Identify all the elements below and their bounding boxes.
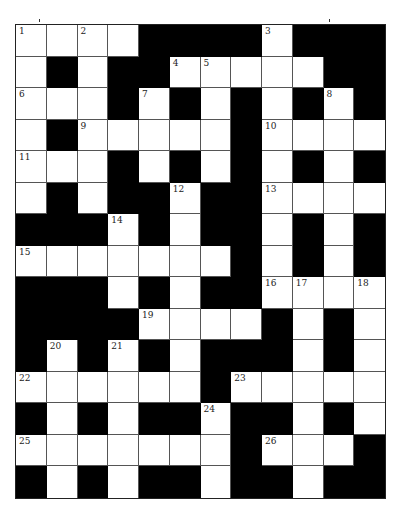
answer-cell[interactable] bbox=[231, 309, 262, 341]
answer-cell[interactable]: 7 bbox=[139, 88, 170, 120]
answer-cell[interactable] bbox=[324, 120, 355, 152]
answer-cell[interactable] bbox=[354, 340, 385, 372]
answer-cell[interactable] bbox=[354, 183, 385, 215]
answer-cell[interactable] bbox=[108, 372, 139, 404]
answer-cell[interactable] bbox=[201, 88, 232, 120]
answer-cell[interactable] bbox=[47, 466, 78, 498]
answer-cell[interactable]: 24 bbox=[201, 403, 232, 435]
answer-cell[interactable] bbox=[47, 88, 78, 120]
answer-cell[interactable]: 22 bbox=[16, 372, 47, 404]
answer-cell[interactable] bbox=[324, 277, 355, 309]
answer-cell[interactable]: 2 bbox=[78, 25, 109, 57]
answer-cell[interactable]: 19 bbox=[139, 309, 170, 341]
answer-cell[interactable]: 1 bbox=[16, 25, 47, 57]
answer-cell[interactable] bbox=[293, 120, 324, 152]
answer-cell[interactable]: 6 bbox=[16, 88, 47, 120]
answer-cell[interactable] bbox=[108, 25, 139, 57]
answer-cell[interactable] bbox=[170, 340, 201, 372]
answer-cell[interactable] bbox=[78, 246, 109, 278]
answer-cell[interactable] bbox=[293, 183, 324, 215]
answer-cell[interactable] bbox=[47, 435, 78, 467]
answer-cell[interactable] bbox=[108, 403, 139, 435]
answer-cell[interactable]: 13 bbox=[262, 183, 293, 215]
answer-cell[interactable] bbox=[262, 246, 293, 278]
answer-cell[interactable]: 16 bbox=[262, 277, 293, 309]
answer-cell[interactable] bbox=[170, 214, 201, 246]
answer-cell[interactable] bbox=[201, 120, 232, 152]
answer-cell[interactable] bbox=[170, 120, 201, 152]
answer-cell[interactable] bbox=[324, 246, 355, 278]
answer-cell[interactable] bbox=[139, 246, 170, 278]
answer-cell[interactable] bbox=[170, 435, 201, 467]
answer-cell[interactable] bbox=[78, 435, 109, 467]
answer-cell[interactable] bbox=[108, 120, 139, 152]
answer-cell[interactable] bbox=[293, 403, 324, 435]
answer-cell[interactable]: 20 bbox=[47, 340, 78, 372]
answer-cell[interactable] bbox=[47, 151, 78, 183]
answer-cell[interactable] bbox=[262, 151, 293, 183]
answer-cell[interactable] bbox=[293, 309, 324, 341]
answer-cell[interactable] bbox=[139, 120, 170, 152]
answer-cell[interactable] bbox=[354, 309, 385, 341]
answer-cell[interactable]: 10 bbox=[262, 120, 293, 152]
answer-cell[interactable] bbox=[293, 372, 324, 404]
answer-cell[interactable] bbox=[47, 25, 78, 57]
answer-cell[interactable] bbox=[201, 151, 232, 183]
answer-cell[interactable] bbox=[262, 88, 293, 120]
answer-cell[interactable]: 17 bbox=[293, 277, 324, 309]
answer-cell[interactable] bbox=[262, 57, 293, 89]
answer-cell[interactable] bbox=[139, 151, 170, 183]
answer-cell[interactable] bbox=[231, 57, 262, 89]
answer-cell[interactable] bbox=[139, 372, 170, 404]
answer-cell[interactable] bbox=[201, 246, 232, 278]
answer-cell[interactable] bbox=[201, 466, 232, 498]
answer-cell[interactable]: 3 bbox=[262, 25, 293, 57]
answer-cell[interactable] bbox=[47, 246, 78, 278]
answer-cell[interactable] bbox=[108, 435, 139, 467]
answer-cell[interactable] bbox=[170, 309, 201, 341]
answer-cell[interactable] bbox=[324, 214, 355, 246]
answer-cell[interactable]: 25 bbox=[16, 435, 47, 467]
answer-cell[interactable] bbox=[170, 277, 201, 309]
answer-cell[interactable] bbox=[16, 183, 47, 215]
answer-cell[interactable] bbox=[139, 435, 170, 467]
answer-cell[interactable]: 8 bbox=[324, 88, 355, 120]
answer-cell[interactable]: 5 bbox=[201, 57, 232, 89]
answer-cell[interactable] bbox=[354, 372, 385, 404]
answer-cell[interactable]: 26 bbox=[262, 435, 293, 467]
answer-cell[interactable] bbox=[108, 466, 139, 498]
answer-cell[interactable]: 12 bbox=[170, 183, 201, 215]
answer-cell[interactable] bbox=[78, 183, 109, 215]
answer-cell[interactable] bbox=[170, 246, 201, 278]
answer-cell[interactable] bbox=[293, 466, 324, 498]
answer-cell[interactable]: 14 bbox=[108, 214, 139, 246]
answer-cell[interactable] bbox=[324, 151, 355, 183]
answer-cell[interactable] bbox=[16, 57, 47, 89]
answer-cell[interactable] bbox=[324, 183, 355, 215]
answer-cell[interactable] bbox=[47, 403, 78, 435]
answer-cell[interactable]: 18 bbox=[354, 277, 385, 309]
answer-cell[interactable] bbox=[108, 246, 139, 278]
answer-cell[interactable] bbox=[324, 372, 355, 404]
answer-cell[interactable]: 4 bbox=[170, 57, 201, 89]
answer-cell[interactable] bbox=[78, 372, 109, 404]
answer-cell[interactable]: 21 bbox=[108, 340, 139, 372]
answer-cell[interactable] bbox=[324, 435, 355, 467]
answer-cell[interactable] bbox=[16, 120, 47, 152]
answer-cell[interactable] bbox=[262, 372, 293, 404]
answer-cell[interactable] bbox=[201, 309, 232, 341]
answer-cell[interactable]: 15 bbox=[16, 246, 47, 278]
answer-cell[interactable] bbox=[354, 120, 385, 152]
answer-cell[interactable] bbox=[108, 277, 139, 309]
answer-cell[interactable] bbox=[78, 57, 109, 89]
answer-cell[interactable] bbox=[78, 88, 109, 120]
answer-cell[interactable] bbox=[293, 340, 324, 372]
answer-cell[interactable] bbox=[78, 151, 109, 183]
answer-cell[interactable]: 23 bbox=[231, 372, 262, 404]
answer-cell[interactable] bbox=[293, 435, 324, 467]
answer-cell[interactable] bbox=[201, 435, 232, 467]
answer-cell[interactable] bbox=[47, 372, 78, 404]
answer-cell[interactable]: 11 bbox=[16, 151, 47, 183]
answer-cell[interactable] bbox=[293, 57, 324, 89]
answer-cell[interactable] bbox=[170, 372, 201, 404]
